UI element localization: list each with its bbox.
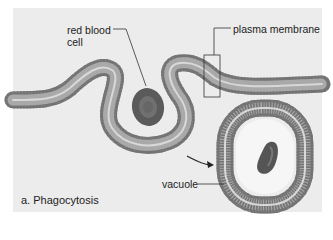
red-blood-cell-label: red blood cell bbox=[67, 24, 111, 48]
leader-lines bbox=[113, 28, 231, 184]
vacuole bbox=[225, 108, 305, 205]
engulf-arrow-icon bbox=[187, 156, 214, 168]
figure-caption: a. Phagocytosis bbox=[21, 194, 99, 206]
red-blood-cell bbox=[129, 86, 167, 129]
plasma-membrane-label: plasma membrane bbox=[233, 23, 320, 35]
vacuole-label: vacuole bbox=[162, 178, 198, 190]
